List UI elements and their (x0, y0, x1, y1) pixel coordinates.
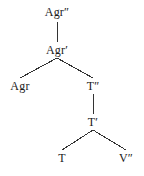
tree-edge-t-bar-to-v-max (93, 130, 126, 150)
tree-edge-agr-bar-to-t-max (57, 58, 93, 78)
tree-node-v-max: V″ (119, 152, 133, 165)
tree-node-agr-max: Agr″ (45, 6, 69, 19)
tree-node-agr-bar: Agr′ (46, 44, 68, 57)
tree-edge-agr-bar-to-agr-head (20, 58, 57, 78)
tree-edge-t-bar-to-t-head (62, 130, 93, 150)
tree-node-t-max: T″ (87, 80, 100, 93)
tree-node-t-bar: T′ (88, 116, 98, 129)
syntax-tree-figure: Agr″Agr′AgrT″T′TV″ (0, 0, 144, 176)
tree-node-t-head: T (58, 152, 66, 165)
tree-node-agr-head: Agr (10, 80, 29, 93)
